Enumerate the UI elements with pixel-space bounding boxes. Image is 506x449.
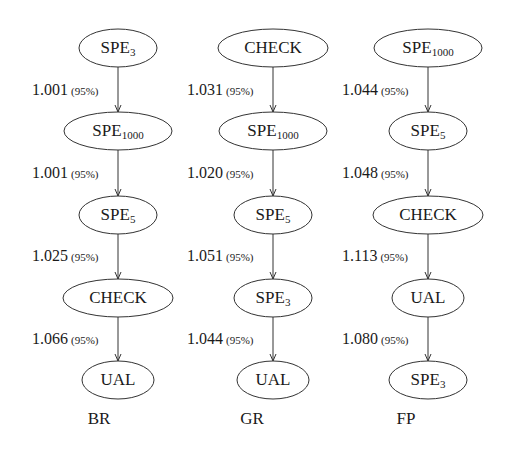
node-fp-4: SPE3: [411, 371, 446, 390]
node-text: UAL: [256, 370, 291, 389]
node-br-0: SPE3: [101, 39, 136, 58]
node-gr-0: CHECK: [244, 39, 302, 58]
edge-confidence: (95%): [381, 168, 409, 180]
edge-confidence: (95%): [381, 85, 409, 97]
node-subscript: 1000: [277, 129, 299, 141]
column-title-br: BR: [88, 410, 111, 427]
node-gr-3: SPE3: [256, 289, 291, 308]
node-text: CHECK: [399, 205, 457, 224]
node-subscript: 3: [285, 296, 291, 308]
edge-value: 1.051: [187, 247, 223, 264]
edge-confidence: (95%): [226, 334, 254, 346]
edge-confidence: (95%): [71, 168, 99, 180]
node-br-1: SPE1000: [92, 122, 143, 141]
edge-label-br-1: 1.001(95%): [32, 165, 99, 181]
edge-confidence: (95%): [226, 168, 254, 180]
edge-label-fp-3: 1.080(95%): [342, 331, 409, 347]
edge-value: 1.025: [32, 247, 68, 264]
node-br-3: CHECK: [89, 289, 147, 308]
edge-label-fp-2: 1.113(95%): [342, 248, 408, 264]
edge-confidence: (95%): [380, 251, 408, 263]
edge-label-br-2: 1.025(95%): [32, 248, 99, 264]
edge-label-gr-3: 1.044(95%): [187, 331, 254, 347]
edge-value: 1.048: [342, 164, 378, 181]
edge-label-gr-2: 1.051(95%): [187, 248, 254, 264]
edge-confidence: (95%): [381, 334, 409, 346]
edge-label-gr-1: 1.020(95%): [187, 165, 254, 181]
node-gr-2: SPE5: [256, 206, 291, 225]
node-subscript: 5: [130, 213, 136, 225]
node-text: SPE: [101, 38, 130, 57]
edge-label-br-0: 1.001(95%): [32, 82, 99, 98]
edge-value: 1.001: [32, 164, 68, 181]
node-text: SPE: [411, 121, 440, 140]
edge-value: 1.044: [342, 81, 378, 98]
node-subscript: 1000: [122, 129, 144, 141]
node-text: CHECK: [89, 288, 147, 307]
edge-value: 1.080: [342, 330, 378, 347]
edge-value: 1.066: [32, 330, 68, 347]
node-text: SPE: [411, 370, 440, 389]
node-subscript: 3: [130, 46, 136, 58]
node-gr-1: SPE1000: [247, 122, 298, 141]
node-gr-4: UAL: [256, 371, 291, 390]
node-text: UAL: [411, 288, 446, 307]
edge-value: 1.001: [32, 81, 68, 98]
node-br-4: UAL: [101, 371, 136, 390]
node-text: UAL: [101, 370, 136, 389]
node-text: SPE: [256, 205, 285, 224]
ranking-diagram: SPE3 SPE1000 SPE5 CHECK UAL 1.001(95%) 1…: [0, 0, 506, 449]
node-subscript: 5: [440, 129, 446, 141]
node-fp-0: SPE1000: [402, 39, 453, 58]
edge-confidence: (95%): [71, 85, 99, 97]
edge-value: 1.044: [187, 330, 223, 347]
edge-label-gr-0: 1.031(95%): [187, 82, 254, 98]
node-text: SPE: [247, 121, 276, 140]
node-fp-2: CHECK: [399, 206, 457, 225]
node-text: SPE: [92, 121, 121, 140]
node-text: SPE: [101, 205, 130, 224]
node-text: CHECK: [244, 38, 302, 57]
node-text: SPE: [402, 38, 431, 57]
edge-value: 1.020: [187, 164, 223, 181]
edge-confidence: (95%): [71, 334, 99, 346]
node-fp-1: SPE5: [411, 122, 446, 141]
edge-confidence: (95%): [226, 85, 254, 97]
edge-value: 1.113: [342, 247, 377, 264]
node-subscript: 3: [440, 378, 446, 390]
node-text: SPE: [256, 288, 285, 307]
node-fp-3: UAL: [411, 289, 446, 308]
node-br-2: SPE5: [101, 206, 136, 225]
edge-confidence: (95%): [226, 251, 254, 263]
edge-confidence: (95%): [71, 251, 99, 263]
edge-label-br-3: 1.066(95%): [32, 331, 99, 347]
column-title-gr: GR: [240, 410, 264, 427]
column-title-fp: FP: [397, 410, 416, 427]
node-subscript: 1000: [432, 46, 454, 58]
node-subscript: 5: [285, 213, 291, 225]
edge-value: 1.031: [187, 81, 223, 98]
edge-label-fp-0: 1.044(95%): [342, 82, 409, 98]
edge-label-fp-1: 1.048(95%): [342, 165, 409, 181]
